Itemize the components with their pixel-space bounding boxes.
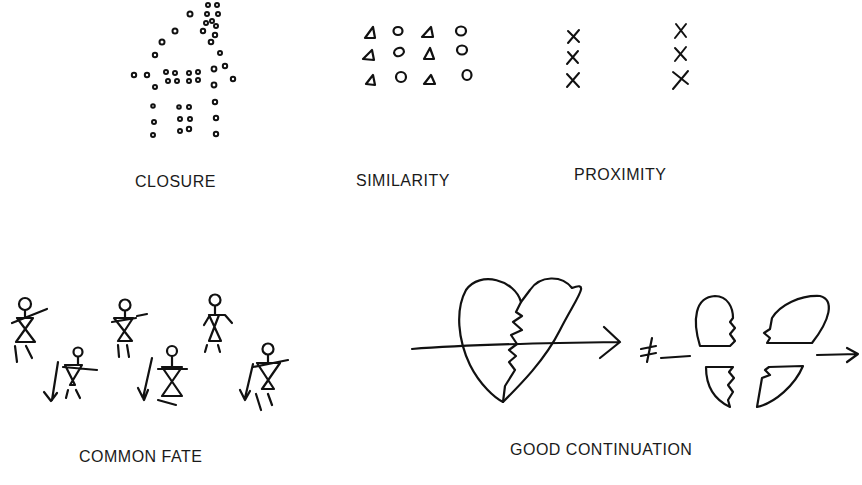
good-continuation-label: GOOD CONTINUATION [510,441,692,459]
broken-heart-arrow-icon [0,0,862,485]
good-continuation-panel: GOOD CONTINUATION [0,0,862,485]
